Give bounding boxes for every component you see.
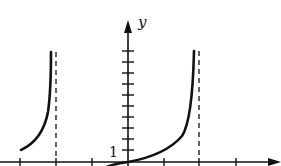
tick-label-one: 1 <box>109 144 118 160</box>
y-axis-arrow-icon <box>124 20 132 33</box>
x-axis-arrow-icon <box>268 158 281 166</box>
y-axis-label: y <box>137 13 147 31</box>
graph-canvas: y 1 <box>0 0 281 166</box>
left-branch-curve <box>21 52 51 150</box>
